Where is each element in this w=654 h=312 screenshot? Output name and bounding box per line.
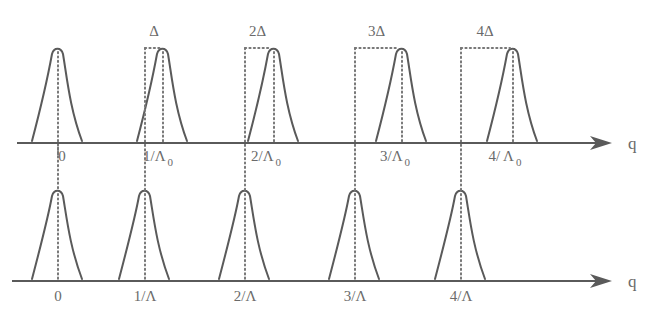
- top-tick-label: 0: [58, 148, 66, 164]
- bottom-peak-2: 2/Λ: [219, 191, 269, 304]
- top-tick-label: 4/ Λ0: [489, 148, 522, 168]
- bottom-axis: q: [12, 272, 637, 291]
- shift-label: 2Δ: [249, 23, 267, 39]
- reference-dotted-lines: [58, 48, 461, 192]
- top-tick-label: 1/Λ0: [143, 148, 174, 168]
- shift-label: 3Δ: [368, 23, 386, 39]
- bottom-tick-label: 1/Λ: [134, 288, 157, 304]
- bottom-axis-label: q: [628, 272, 637, 291]
- cropped-caption-fragment: [0, 0, 654, 3]
- bottom-tick-label: 4/Λ: [450, 288, 473, 304]
- top-tick-label: 3/Λ0: [380, 148, 411, 168]
- bottom-peak-0: 0: [32, 191, 82, 304]
- bottom-tick-label: 2/Λ: [234, 288, 257, 304]
- top-peak-0: 0: [32, 49, 82, 164]
- shift-label: 4Δ: [476, 23, 494, 39]
- bottom-peak-4: 4/Λ: [435, 191, 485, 304]
- bottom-tick-label: 3/Λ: [344, 288, 367, 304]
- bottom-peak-1: 1/Λ: [119, 191, 169, 304]
- top-axis: q: [17, 134, 637, 153]
- top-peak-4: 4Δ4/ Λ0: [461, 23, 537, 168]
- top-peak-2: 2Δ2/Λ0: [245, 23, 298, 168]
- bottom-row-lattice-peaks: 01/Λ2/Λ3/Λ4/Λ: [32, 191, 485, 304]
- shift-label: Δ: [149, 23, 159, 39]
- top-axis-label: q: [628, 134, 637, 153]
- top-tick-label: 2/Λ0: [251, 148, 282, 168]
- bottom-tick-label: 0: [54, 288, 62, 304]
- reciprocal-lattice-diagram: 0Δ1/Λ02Δ2/Λ03Δ3/Λ04Δ4/ Λ0 01/Λ2/Λ3/Λ4/Λ …: [0, 0, 654, 312]
- bottom-peak-3: 3/Λ: [329, 191, 379, 304]
- top-peak-3: 3Δ3/Λ0: [355, 23, 426, 168]
